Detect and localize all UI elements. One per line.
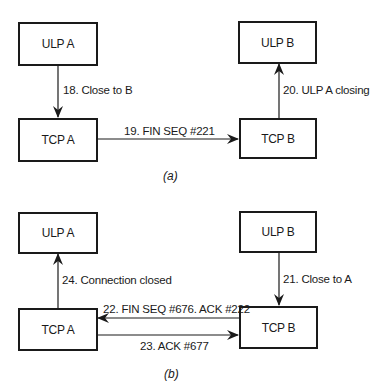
box-ulp-a-part-b: ULP A	[18, 212, 98, 254]
box-label: TCP A	[42, 323, 75, 337]
box-label: TCP B	[261, 132, 295, 146]
box-label: TCP A	[42, 133, 75, 147]
box-ulp-a-part-a: ULP A	[18, 22, 98, 66]
label-arrow-21: 21. Close to A	[283, 274, 352, 286]
box-label: ULP B	[261, 36, 294, 50]
label-arrow-24: 24. Connection closed	[62, 275, 172, 287]
label-arrow-23: 23. ACK #677	[140, 341, 209, 353]
box-label: TCP B	[262, 321, 296, 335]
label-arrow-20: 20. ULP A closing	[283, 85, 370, 97]
box-tcp-b-part-a: TCP B	[239, 118, 317, 159]
box-label: ULP A	[42, 226, 74, 240]
box-label: ULP B	[262, 225, 295, 239]
tcp-close-diagram: ULP A TCP A ULP B TCP B 18. Close to B 1…	[0, 0, 370, 391]
box-tcp-a-part-b: TCP A	[18, 308, 98, 351]
label-arrow-19: 19. FIN SEQ #221	[124, 126, 215, 138]
box-ulp-b-part-a: ULP B	[238, 21, 317, 64]
box-label: ULP A	[42, 37, 74, 51]
caption-part-b: (b)	[164, 368, 179, 380]
caption-part-a: (a)	[163, 170, 178, 182]
box-tcp-b-part-b: TCP B	[239, 306, 318, 349]
label-arrow-18: 18. Close to B	[63, 85, 132, 97]
box-ulp-b-part-b: ULP B	[239, 211, 317, 253]
label-arrow-22: 22. FIN SEQ #676. ACK #222	[103, 304, 250, 316]
box-tcp-a-part-a: TCP A	[18, 118, 98, 162]
